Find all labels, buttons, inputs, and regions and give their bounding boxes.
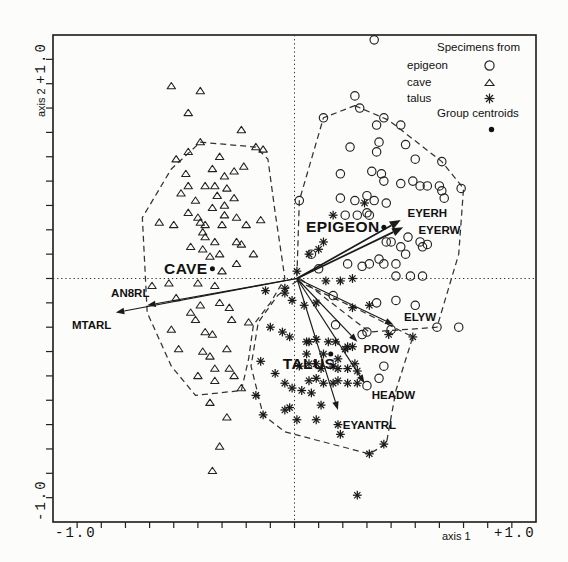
legend-centroid-title: Group centroids [437, 107, 519, 119]
variable-label-eyerw: EYERW [418, 224, 460, 236]
variable-label-an8rl: AN8RL [111, 287, 149, 299]
centroid-dot-icon [486, 124, 497, 135]
variable-label-eyantrl: EYANTRL [343, 419, 396, 431]
variable-label-prow: PROW [364, 343, 400, 355]
cave-triangle-icon [483, 77, 496, 88]
group-label-talus: TALUS [283, 355, 336, 372]
y-axis-name: axis 2 [35, 88, 47, 117]
cave-points [148, 83, 267, 474]
y-axis-min-label: -1.0 [33, 479, 49, 521]
arrow-labels: EYERHEYERWELYWPROWHEADWEYANTRLAN8RLMTARL [72, 207, 461, 431]
talus-asterisk-icon [483, 92, 496, 105]
group-label-epigeon: EPIGEON [306, 218, 379, 235]
y-axis-max-label: +1.0 [33, 42, 49, 84]
x-axis-min-label: -1.0 [55, 525, 97, 541]
ordination-figure: EYERHEYERWELYWPROWHEADWEYANTRLAN8RLMTARL… [0, 0, 568, 562]
variable-label-eyerh: EYERH [408, 207, 448, 219]
legend-item-cave: cave [407, 76, 431, 88]
legend-item-epigeon: epigeon [407, 59, 448, 71]
x-axis-name: axis 1 [442, 530, 471, 542]
x-axis-max-label: +1.0 [494, 525, 536, 541]
group-label-cave: CAVE [164, 260, 208, 277]
legend-title: Specimens from [437, 41, 520, 53]
variable-label-headw: HEADW [372, 389, 416, 401]
variable-label-elyw: ELYW [404, 311, 436, 323]
epigeon-circle-icon [483, 59, 496, 72]
y-axis-label: axis 2 +1.0 [31, 42, 49, 117]
biplot-arrows [116, 220, 403, 410]
variable-label-mtarl: MTARL [72, 319, 111, 331]
legend-item-talus: talus [407, 92, 431, 104]
